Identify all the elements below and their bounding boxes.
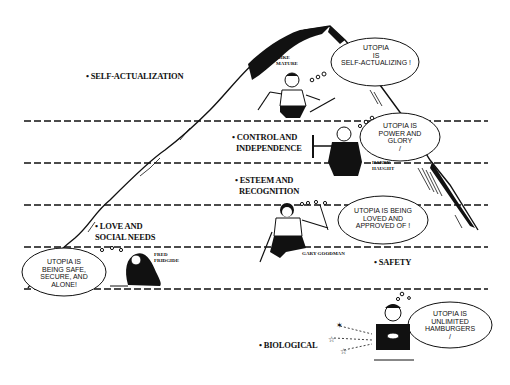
- bubble-text-harry: UTOPIA IS POWER AND GLORY /: [365, 122, 435, 152]
- character-harry-figure: [313, 127, 362, 176]
- name-tag-mike: MIKE MATURE: [276, 55, 298, 66]
- level-label-control: •CONTROL AND INDEPENDENCE: [232, 132, 302, 154]
- bubble-text-fred: UTOPIA IS BEING SAFE, SECURE, AND ALONE!: [30, 258, 98, 288]
- maslow-mountain-cartoon: ✶ ☆ ☆ •SELF-ACTUALIZATION •CONTROL AND I…: [0, 0, 510, 385]
- character-bio-figure: ✶ ☆ ☆: [328, 304, 414, 360]
- name-tag-harry: HARRY HAUGHT: [372, 160, 394, 171]
- level-label-biological: •BIOLOGICAL: [259, 340, 318, 351]
- bubble-text-gary: UTOPIA IS BEING LOVED AND APPROVED OF !: [343, 207, 423, 230]
- svg-text:☆: ☆: [328, 335, 335, 344]
- level-label-self-actualization: •SELF-ACTUALIZATION: [86, 71, 183, 82]
- character-mike-figure: [258, 73, 335, 118]
- level-label-esteem: •ESTEEM AND RECOGNITION: [235, 175, 299, 197]
- name-tag-fred: FRED FRIDGIDE: [154, 252, 179, 263]
- bubble-text-bio: UTOPIA IS UNLIMITED HAMBURGERS /: [414, 310, 486, 340]
- level-label-love: •LOVE AND SOCIAL NEEDS: [95, 221, 155, 243]
- svg-text:☆: ☆: [340, 347, 347, 356]
- svg-text:✶: ✶: [336, 321, 343, 330]
- level-label-safety: •SAFETY: [374, 257, 411, 268]
- bubble-text-mike: UTOPIA IS SELF-ACTUALIZING !: [336, 44, 416, 67]
- name-tag-gary: GARY GOODMAN: [302, 251, 345, 257]
